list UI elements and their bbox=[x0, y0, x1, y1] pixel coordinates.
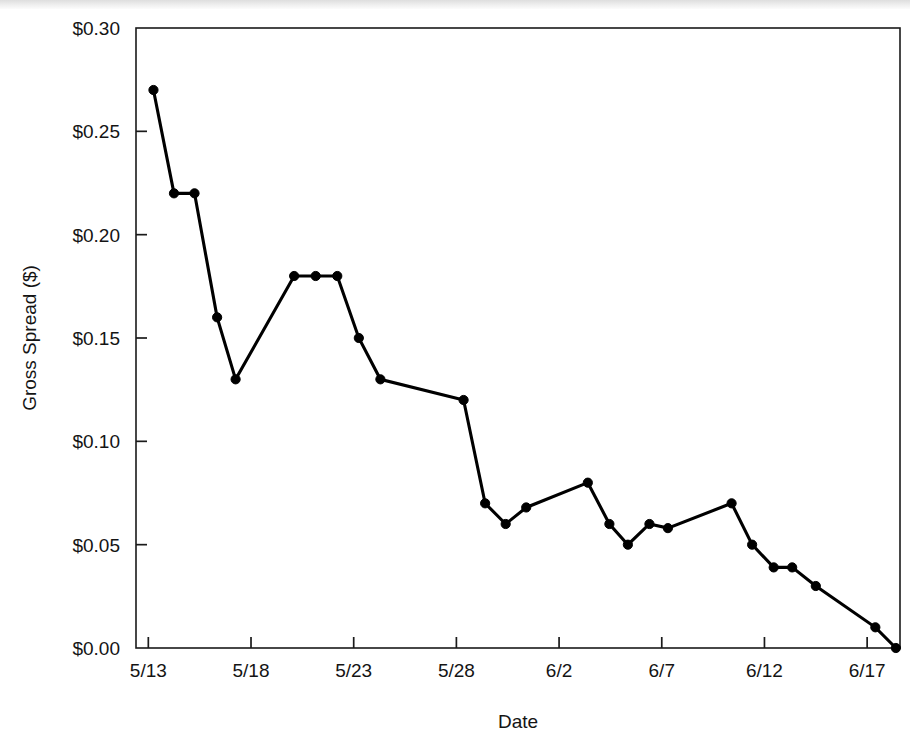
y-tick-label: $0.10 bbox=[72, 431, 120, 452]
data-point-marker bbox=[481, 499, 490, 508]
data-point-marker bbox=[811, 581, 820, 590]
y-tick-label: $0.25 bbox=[72, 121, 120, 142]
data-point-marker bbox=[605, 519, 614, 528]
data-point-marker bbox=[190, 189, 199, 198]
data-point-marker bbox=[501, 519, 510, 528]
y-tick-label: $0.15 bbox=[72, 328, 120, 349]
x-tick-label: 6/12 bbox=[746, 660, 783, 681]
data-point-marker bbox=[376, 375, 385, 384]
plot-area-border bbox=[136, 28, 900, 648]
data-point-marker bbox=[522, 503, 531, 512]
y-tick-label: $0.30 bbox=[72, 18, 120, 39]
data-point-marker bbox=[663, 524, 672, 533]
data-point-marker bbox=[645, 519, 654, 528]
data-point-marker bbox=[727, 499, 736, 508]
x-tick-label: 5/23 bbox=[335, 660, 372, 681]
data-point-marker bbox=[891, 643, 900, 652]
x-axis-title: Date bbox=[498, 711, 538, 732]
data-point-marker bbox=[231, 375, 240, 384]
data-point-marker bbox=[583, 478, 592, 487]
x-tick-label: 6/17 bbox=[849, 660, 886, 681]
data-point-marker bbox=[459, 395, 468, 404]
data-point-marker bbox=[311, 271, 320, 280]
y-tick-label: $0.00 bbox=[72, 638, 120, 659]
y-tick-label: $0.05 bbox=[72, 535, 120, 556]
data-point-marker bbox=[333, 271, 342, 280]
x-tick-label: 5/18 bbox=[233, 660, 270, 681]
data-point-marker bbox=[871, 623, 880, 632]
data-point-marker bbox=[769, 563, 778, 572]
data-point-marker bbox=[354, 333, 363, 342]
x-tick-label: 5/28 bbox=[438, 660, 475, 681]
data-point-marker bbox=[623, 540, 632, 549]
data-point-marker bbox=[788, 563, 797, 572]
x-tick-label: 6/7 bbox=[649, 660, 675, 681]
x-tick-label: 5/13 bbox=[130, 660, 167, 681]
data-point-marker bbox=[149, 85, 158, 94]
chart-figure: $0.00$0.05$0.10$0.15$0.20$0.25$0.30 5/13… bbox=[0, 0, 910, 752]
data-point-marker bbox=[748, 540, 757, 549]
data-point-marker bbox=[169, 189, 178, 198]
y-tick-label: $0.20 bbox=[72, 225, 120, 246]
x-tick-label: 6/2 bbox=[546, 660, 572, 681]
data-point-marker bbox=[290, 271, 299, 280]
data-point-marker bbox=[213, 313, 222, 322]
y-axis-title: Gross Spread ($) bbox=[19, 265, 40, 411]
line-chart: $0.00$0.05$0.10$0.15$0.20$0.25$0.30 5/13… bbox=[0, 0, 910, 752]
